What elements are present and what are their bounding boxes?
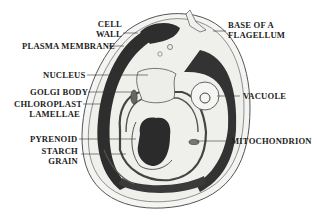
- vacuole: [191, 82, 219, 110]
- label-plasma-membrane: PLASMA MEMBRANE: [22, 42, 115, 52]
- label-chloroplast-lamellae: CHLOROPLAST LAMELLAE: [14, 100, 80, 119]
- label-golgi-body: GOLGI BODY: [30, 88, 88, 98]
- nucleus: [137, 68, 176, 102]
- label-vacuole: VACUOLE: [243, 92, 286, 102]
- label-nucleus: NUCLEUS: [43, 71, 85, 81]
- label-base-of-flagellum: BASE OF A FLAGELLUM: [228, 21, 285, 40]
- label-starch-grain: STARCH GRAIN: [36, 147, 78, 166]
- mitochondrion: [189, 139, 199, 144]
- label-cell-wall: CELL WALL: [80, 20, 122, 39]
- label-mitochondrion: MITOCHONDRION: [231, 137, 312, 147]
- label-pyrenoid: PYRENOID: [30, 135, 77, 145]
